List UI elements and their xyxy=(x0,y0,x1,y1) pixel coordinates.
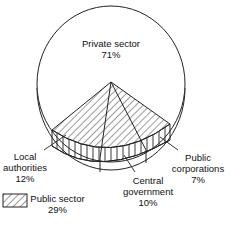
legend-pct: 29% xyxy=(30,204,85,215)
legend-label: Public sector xyxy=(30,193,85,204)
label-local-pct: 12% xyxy=(0,173,50,184)
label-local-authorities: Local authorities 12% xyxy=(0,151,50,184)
legend-public-sector: Public sector 29% xyxy=(30,193,85,215)
legend-swatch-public-sector xyxy=(3,194,27,207)
label-central-government: Central government 10% xyxy=(118,175,178,208)
label-local-line1: Local xyxy=(0,151,50,162)
label-local-line2: authorities xyxy=(0,162,50,173)
label-central-line1: Central xyxy=(118,175,178,186)
label-private-pct: 71% xyxy=(80,49,142,60)
label-central-line2: government xyxy=(118,186,178,197)
label-corp-pct: 7% xyxy=(170,174,225,185)
label-private-name: Private sector xyxy=(80,38,142,49)
label-corp-line1: Public xyxy=(170,152,225,163)
label-public-corporations: Public corporations 7% xyxy=(170,152,225,185)
label-private-sector: Private sector 71% xyxy=(80,38,142,60)
label-central-pct: 10% xyxy=(118,197,178,208)
label-corp-line2: corporations xyxy=(170,163,225,174)
